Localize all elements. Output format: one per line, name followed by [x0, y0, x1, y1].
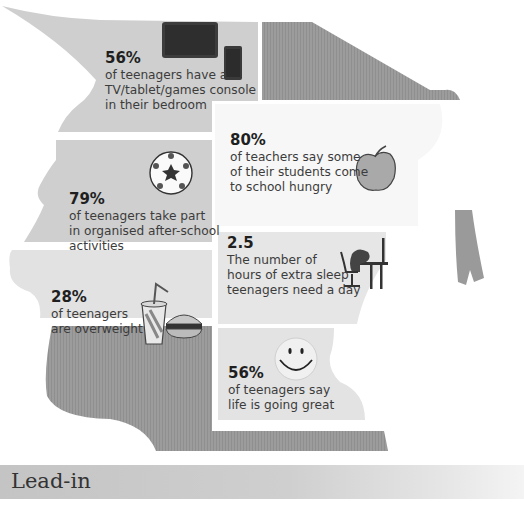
section-header-bar: Lead-in [0, 465, 524, 499]
section-title: Lead-in [11, 469, 91, 493]
stat-afterschool: 79% of teenagers take part in organised … [69, 190, 220, 254]
stat-sleep: 2.5 The number of hours of extra sleep t… [227, 234, 361, 298]
stat-description: of teenagers take part in organised afte… [69, 209, 220, 254]
mortarboard-cap [262, 22, 460, 100]
stat-description: The number of hours of extra sleep teena… [227, 253, 361, 298]
stat-description: of teenagers are overweight [51, 307, 143, 337]
fast-food-icon [136, 280, 208, 346]
stat-value: 28% [51, 288, 143, 306]
stat-value: 56% [105, 49, 256, 67]
stat-happy: 56% of teenagers say life is going great [228, 364, 334, 413]
tassel [455, 210, 484, 285]
stat-devices: 56% of teenagers have a TV/tablet/games … [105, 49, 256, 113]
stat-hungry: 80% of teachers say some of their studen… [230, 131, 368, 195]
stat-value: 2.5 [227, 234, 361, 252]
stat-description: of teachers say some of their students c… [230, 150, 368, 195]
stat-description: of teenagers have a TV/tablet/games cons… [105, 68, 256, 113]
stat-value: 56% [228, 364, 334, 382]
stat-overweight: 28% of teenagers are overweight [51, 288, 143, 337]
stat-description: of teenagers say life is going great [228, 383, 334, 413]
stat-value: 79% [69, 190, 220, 208]
stat-value: 80% [230, 131, 368, 149]
